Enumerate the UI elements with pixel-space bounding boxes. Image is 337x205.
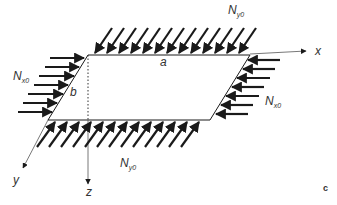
plate-outline <box>48 55 250 120</box>
top-load-label: Ny0 <box>228 4 244 18</box>
x-axis-label: x <box>315 45 321 57</box>
edge-a-label: a <box>160 56 167 68</box>
top-load-symbol: N <box>228 3 237 17</box>
edge-b-label: b <box>70 86 77 98</box>
panel-label: c <box>323 183 328 193</box>
left-load-subscript: x0 <box>22 77 29 84</box>
left-load-label: Nx0 <box>13 70 29 84</box>
left-load-symbol: N <box>13 69 22 83</box>
right-load-label: Nx0 <box>265 95 281 109</box>
bottom-load-arrows <box>37 122 199 147</box>
x-axis <box>250 51 306 54</box>
bottom-load-subscript: y0 <box>129 164 136 171</box>
plate-buckling-diagram <box>0 0 337 205</box>
right-load-subscript: x0 <box>274 102 281 109</box>
top-load-arrows <box>95 28 256 53</box>
top-load-subscript: y0 <box>237 11 244 18</box>
bottom-load-symbol: N <box>120 156 129 170</box>
y-axis <box>23 120 48 168</box>
y-axis-label: y <box>13 174 19 186</box>
right-load-symbol: N <box>265 94 274 108</box>
z-axis-label: z <box>86 186 92 198</box>
bottom-load-label: Ny0 <box>120 157 136 171</box>
